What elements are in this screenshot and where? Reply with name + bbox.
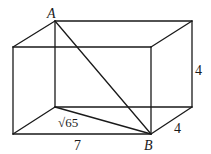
prism-diagram: A B 4 4 7 √65: [0, 0, 211, 154]
edge-top-left-depth: [13, 21, 55, 47]
edge-bottom-left-depth: [13, 107, 55, 134]
label-floor-diagonal: √65: [58, 115, 78, 130]
label-length: 7: [74, 138, 81, 153]
edge-bottom-right-depth: [151, 107, 192, 134]
label-depth: 4: [174, 121, 181, 136]
label-point-b: B: [144, 138, 153, 153]
label-height: 4: [195, 63, 202, 78]
edge-top-right-depth: [151, 21, 192, 47]
label-point-a: A: [46, 6, 56, 21]
